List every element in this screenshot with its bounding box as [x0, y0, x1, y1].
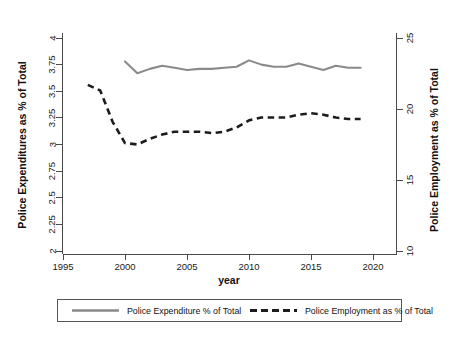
x-tick-label: 2010: [238, 261, 259, 272]
x-tick-label: 2015: [300, 261, 321, 272]
left-tick-label: 4: [47, 35, 58, 40]
right-tick-label: 25: [404, 33, 415, 44]
chart-background: [0, 0, 459, 341]
chart-svg: 2 2.25 2.5 2.75 3 3.25 3.5 3.75 4 Police…: [0, 0, 459, 341]
left-tick-label: 3: [47, 142, 58, 147]
left-axis-tick-labels: 2 2.25 2.5 2.75 3 3.25 3.5 3.75 4: [47, 35, 58, 253]
left-tick-label: 2.25: [47, 215, 58, 234]
left-tick-label: 3.75: [47, 55, 58, 74]
left-tick-label: 2: [47, 248, 58, 253]
x-tick-label: 2000: [114, 261, 135, 272]
right-tick-label: 10: [404, 246, 415, 257]
right-tick-label: 15: [404, 175, 415, 186]
left-tick-label: 2.75: [47, 162, 58, 181]
left-tick-label: 3.5: [47, 85, 58, 98]
x-tick-label: 2005: [176, 261, 197, 272]
x-tick-label: 1995: [52, 261, 73, 272]
legend-label-employment: Police Employment as % of Total: [305, 306, 433, 316]
x-axis-title: year: [218, 274, 240, 286]
legend-label-expenditure: Police Expenditure % of Total: [127, 306, 241, 316]
chart-figure: 2 2.25 2.5 2.75 3 3.25 3.5 3.75 4 Police…: [0, 0, 459, 341]
left-tick-label: 3.25: [47, 109, 58, 128]
left-axis-title: Police Expenditures as % of Total: [16, 61, 28, 228]
right-tick-label: 20: [404, 104, 415, 115]
x-tick-label: 2020: [362, 261, 383, 272]
left-tick-label: 2.5: [47, 191, 58, 204]
right-axis-title: Police Employment as % of Total: [428, 68, 440, 232]
